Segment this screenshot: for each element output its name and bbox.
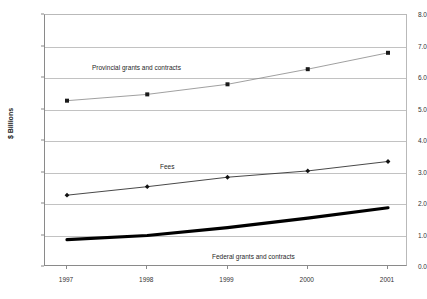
x-axis-tick-label: 1997 bbox=[36, 276, 96, 283]
series-canvas bbox=[45, 15, 408, 267]
series-label-fees: Fees bbox=[160, 163, 174, 170]
x-axis-tick-label: 2001 bbox=[357, 276, 417, 283]
data-point-marker bbox=[225, 175, 230, 180]
series-fees bbox=[65, 159, 391, 198]
x-axis-tick-label: 1999 bbox=[197, 276, 257, 283]
series-label-federal-grants-and-contracts: Federal grants and contracts bbox=[212, 253, 295, 260]
data-point-marker bbox=[145, 92, 149, 96]
x-axis-tick-label: 1998 bbox=[116, 276, 176, 283]
data-point-marker bbox=[305, 169, 310, 174]
data-point-marker bbox=[65, 99, 69, 103]
series-label-provincial-grants-and-contracts: Provincial grants and contracts bbox=[92, 64, 181, 71]
series-federal-grants-and-contracts bbox=[67, 208, 388, 240]
x-axis-tick-label: 2000 bbox=[277, 276, 337, 283]
series-line bbox=[67, 208, 388, 240]
plot-area bbox=[44, 14, 407, 266]
data-point-marker bbox=[306, 67, 310, 71]
data-point-marker bbox=[386, 51, 390, 55]
data-point-marker bbox=[386, 159, 391, 164]
data-point-marker bbox=[226, 82, 230, 86]
cropped-title-sliver bbox=[62, 0, 202, 3]
data-point-marker bbox=[65, 193, 70, 198]
data-point-marker bbox=[145, 184, 150, 189]
series-provincial-grants-and-contracts bbox=[65, 51, 390, 103]
series-line bbox=[67, 53, 388, 101]
line-chart-figure: $ Billions 0.01.02.03.04.05.06.07.08.0 1… bbox=[0, 0, 427, 299]
y-axis-title: $ Billions bbox=[7, 94, 14, 154]
